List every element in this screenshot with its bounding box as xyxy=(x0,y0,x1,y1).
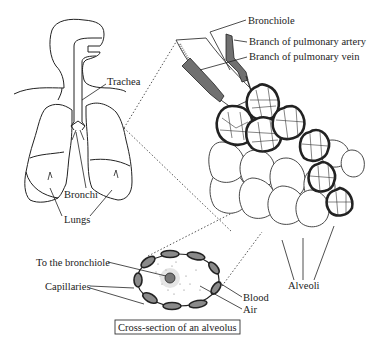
cross-section-caption-box: Cross-section of an alveolus xyxy=(115,320,240,334)
caption-cross-section: Cross-section of an alveolus xyxy=(118,322,237,333)
label-pulmonary-artery: Branch of pulmonary artery xyxy=(249,36,367,47)
pointer-pulmonary-artery xyxy=(234,40,247,42)
label-capillaries: Capillaries xyxy=(45,281,91,292)
label-to-bronchiole: To the bronchiole xyxy=(36,257,110,268)
label-blood: Blood xyxy=(243,292,269,303)
label-lungs: Lungs xyxy=(64,214,90,225)
pointer-capillaries-1 xyxy=(90,286,134,288)
pointer-alveoli-3 xyxy=(314,226,334,280)
right-lung xyxy=(86,103,132,200)
label-trachea: Trachea xyxy=(107,76,141,87)
pointer-blood xyxy=(218,282,242,297)
alveolus-cross-section xyxy=(134,251,223,310)
label-pulmonary-vein: Branch of pulmonary vein xyxy=(249,51,360,62)
pointer-bronchi xyxy=(76,132,86,188)
trachea xyxy=(71,100,85,130)
label-bronchi: Bronchi xyxy=(64,189,98,200)
left-lung xyxy=(25,104,72,202)
label-bronchiole: Bronchiole xyxy=(248,15,295,26)
label-alveoli: Alveoli xyxy=(288,280,320,291)
pointer-alveoli-1 xyxy=(282,240,294,280)
pointer-lungs-left xyxy=(50,188,62,216)
label-air: Air xyxy=(243,304,258,315)
respiratory-diagram: Trachea Bronchi Lungs xyxy=(0,0,378,354)
torso-outline xyxy=(14,19,126,100)
pointer-capillaries-2 xyxy=(90,288,144,304)
